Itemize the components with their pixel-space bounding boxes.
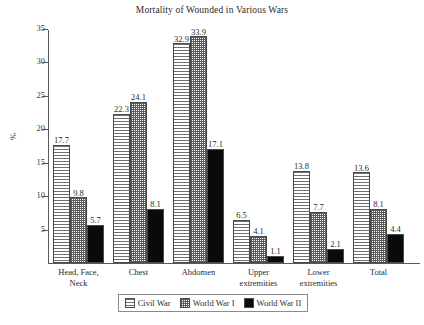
bar-value-label: 22.3 (114, 105, 129, 114)
category-label: Abdomen (164, 267, 233, 278)
category-label: Lowerextremities (284, 267, 353, 289)
bar-value-label: 13.8 (294, 162, 309, 171)
bar: 1.1 (267, 256, 284, 263)
bar-value-label: 17.1 (208, 140, 223, 149)
chart-legend: Civil WarWorld War IWorld War II (118, 294, 308, 312)
bar: 24.1 (130, 102, 147, 263)
category-label-line: Total (344, 267, 413, 278)
bar-value-label: 8.1 (150, 200, 161, 209)
bar-value-label: 9.8 (73, 189, 84, 198)
y-tick-label: 30 (37, 56, 46, 66)
legend-item[interactable]: World War I (180, 298, 235, 308)
legend-label: Civil War (138, 299, 171, 308)
category-label-line: Abdomen (164, 267, 233, 278)
y-tick-label: 15 (37, 157, 46, 167)
category-label-line: extremities (224, 278, 293, 289)
y-tick-label: 25 (37, 90, 46, 100)
category-label: Total (344, 267, 413, 278)
bar-group: 13.68.14.4 (353, 29, 404, 263)
bar-value-label: 1.1 (270, 247, 281, 256)
y-axis-line (48, 30, 49, 264)
bar-value-label: 7.7 (313, 203, 324, 212)
legend-label: World War I (193, 299, 235, 308)
category-label: Head, Face,Neck (44, 267, 113, 289)
legend-item[interactable]: World War II (244, 298, 302, 308)
bar: 4.4 (387, 234, 404, 263)
y-tick-label: 35 (37, 23, 46, 33)
chart-figure: Mortality of Wounded in Various Wars % 5… (0, 0, 424, 325)
bar: 8.1 (370, 209, 387, 263)
y-tick-label: 20 (37, 123, 46, 133)
bar-value-label: 6.5 (236, 211, 247, 220)
bar: 13.8 (293, 171, 310, 263)
y-axis-title: % (8, 133, 18, 140)
bar-group: 17.79.85.7 (53, 29, 104, 263)
bar: 7.7 (310, 212, 327, 263)
bar: 2.1 (327, 249, 344, 263)
bar: 17.1 (207, 149, 224, 263)
plot-area: 5101520253035 17.79.85.722.324.18.132.93… (48, 28, 420, 264)
bar-value-label: 4.1 (253, 227, 264, 236)
bar: 22.3 (113, 114, 130, 263)
x-axis-line (48, 263, 420, 264)
category-label-line: extremities (284, 278, 353, 289)
bar-value-label: 4.4 (390, 225, 401, 234)
category-label: Chest (104, 267, 173, 278)
category-label-line: Chest (104, 267, 173, 278)
bar: 5.7 (87, 225, 104, 263)
category-label-line: Neck (44, 278, 113, 289)
category-label: Upperextremities (224, 267, 293, 289)
bar-value-label: 32.9 (174, 35, 189, 44)
bar-value-label: 24.1 (131, 93, 146, 102)
bar: 33.9 (190, 36, 207, 263)
legend-swatch-icon (244, 298, 254, 308)
bar-group: 6.54.11.1 (233, 29, 284, 263)
category-label-line: Upper (224, 267, 293, 278)
bar-value-label: 8.1 (373, 200, 384, 209)
bar: 9.8 (70, 197, 87, 263)
bar: 17.7 (53, 145, 70, 263)
bar-value-label: 17.7 (54, 136, 69, 145)
category-label-line: Lower (284, 267, 353, 278)
bar-group: 32.933.917.1 (173, 29, 224, 263)
legend-swatch-icon (125, 298, 135, 308)
bar: 32.9 (173, 43, 190, 263)
legend-item[interactable]: Civil War (125, 298, 171, 308)
y-tick-label: 5 (41, 224, 45, 234)
bar-value-label: 2.1 (330, 240, 341, 249)
bar-value-label: 13.6 (354, 164, 369, 173)
category-label-line: Head, Face, (44, 267, 113, 278)
legend-label: World War II (257, 299, 302, 308)
y-tick-label: 10 (37, 190, 46, 200)
bar-value-label: 5.7 (90, 216, 101, 225)
bar: 6.5 (233, 220, 250, 263)
bar-group: 22.324.18.1 (113, 29, 164, 263)
bar-value-label: 33.9 (191, 28, 206, 37)
bar: 8.1 (147, 209, 164, 263)
legend-swatch-icon (180, 298, 190, 308)
bar-group: 13.87.72.1 (293, 29, 344, 263)
chart-title: Mortality of Wounded in Various Wars (0, 5, 424, 15)
bar: 4.1 (250, 236, 267, 263)
bar: 13.6 (353, 172, 370, 263)
